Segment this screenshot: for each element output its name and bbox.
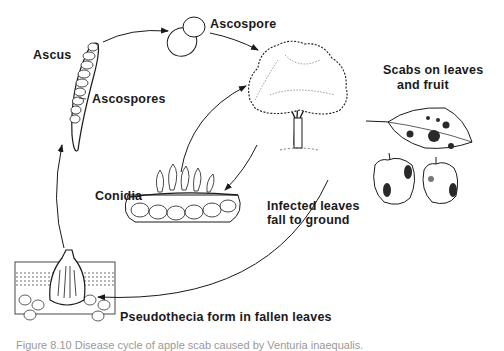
- infected-tree-illustration: [249, 41, 348, 150]
- arrow-ascospore-to-tree: [210, 33, 258, 50]
- label-ascus: Ascus: [33, 48, 72, 62]
- scabbed-leaf-illustration: [366, 108, 472, 149]
- label-infected-line1: Infected leaves: [267, 199, 360, 213]
- ascospore-illustration: [162, 17, 205, 62]
- arrow-conidia-to-tree: [181, 86, 246, 172]
- arrow-pseudothecia-to-ascus: [56, 145, 64, 248]
- label-scabs-line2: and fruit: [397, 78, 449, 92]
- label-scabs-line1: Scabs on leaves: [383, 63, 483, 77]
- arrow-tree-to-conidia: [225, 145, 257, 190]
- arrow-ascus-to-ascospore: [103, 30, 168, 42]
- scabbed-apples-illustration: [374, 153, 458, 204]
- pseudothecium-illustration: [15, 250, 115, 321]
- label-conidia: Conidia: [95, 189, 142, 203]
- conidia-illustration: [125, 164, 240, 222]
- label-ascospores: Ascospores: [92, 92, 166, 106]
- figure-caption: Figure 8.10 Disease cycle of apple scab …: [16, 339, 363, 351]
- label-infected-line2: fall to ground: [267, 213, 350, 227]
- label-pseudothecia: Pseudothecia form in fallen leaves: [120, 310, 332, 324]
- label-ascospore: Ascospore: [210, 17, 276, 31]
